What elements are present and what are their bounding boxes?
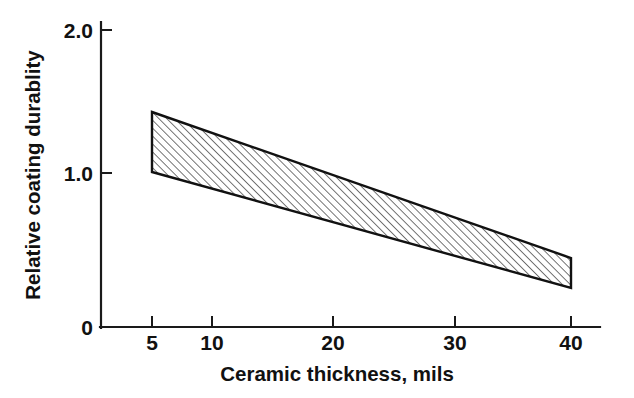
y-axis-title: Relative coating durablity <box>21 50 44 300</box>
x-ticklabel-40: 40 <box>559 331 582 354</box>
x-ticklabel-5: 5 <box>146 331 158 354</box>
x-axis-title: Ceramic thickness, mils <box>220 362 454 385</box>
durability-vs-thickness-chart: 2.0 1.0 0 5 10 20 30 40 Ceramic thicknes… <box>0 0 634 398</box>
x-ticklabel-10: 10 <box>200 331 223 354</box>
y-ticklabel-1.0: 1.0 <box>64 162 93 185</box>
y-ticklabel-0: 0 <box>81 316 93 339</box>
chart-figure: 2.0 1.0 0 5 10 20 30 40 Ceramic thicknes… <box>0 0 634 398</box>
y-ticklabel-2.0: 2.0 <box>64 19 93 42</box>
x-ticklabel-30: 30 <box>443 331 466 354</box>
x-ticklabel-20: 20 <box>321 331 344 354</box>
